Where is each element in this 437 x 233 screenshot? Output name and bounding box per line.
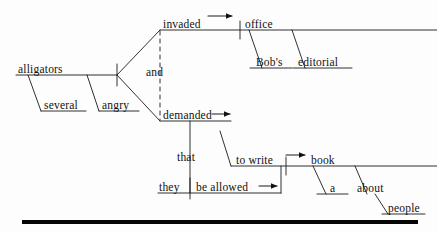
- sentence-diagram: alligators several angry invaded office …: [0, 0, 437, 233]
- word-invaded: invaded: [163, 19, 201, 31]
- fork-lower-branch: [117, 75, 160, 121]
- word-editorial: editorial: [298, 57, 338, 69]
- slant-to-write: [220, 131, 231, 166]
- word-alligators: alligators: [18, 64, 63, 76]
- slant-people: [375, 194, 388, 214]
- word-they: they: [159, 182, 180, 194]
- slant-angry: [87, 75, 99, 111]
- word-about: about: [357, 183, 384, 195]
- word-bobs: Bob's: [256, 57, 283, 69]
- word-people: people: [388, 203, 420, 215]
- word-and: and: [146, 67, 163, 79]
- word-demanded: demanded: [163, 110, 212, 122]
- word-a: a: [330, 183, 335, 195]
- slant-a: [313, 166, 326, 194]
- word-angry: angry: [102, 100, 129, 112]
- diagram-lines: [0, 0, 437, 233]
- word-several: several: [44, 100, 78, 112]
- slant-several: [28, 75, 41, 111]
- word-book: book: [311, 155, 335, 167]
- word-that: that: [177, 152, 195, 164]
- word-to-write: to write: [236, 155, 273, 167]
- word-be-allowed: be allowed: [196, 182, 248, 194]
- word-office: office: [245, 19, 273, 31]
